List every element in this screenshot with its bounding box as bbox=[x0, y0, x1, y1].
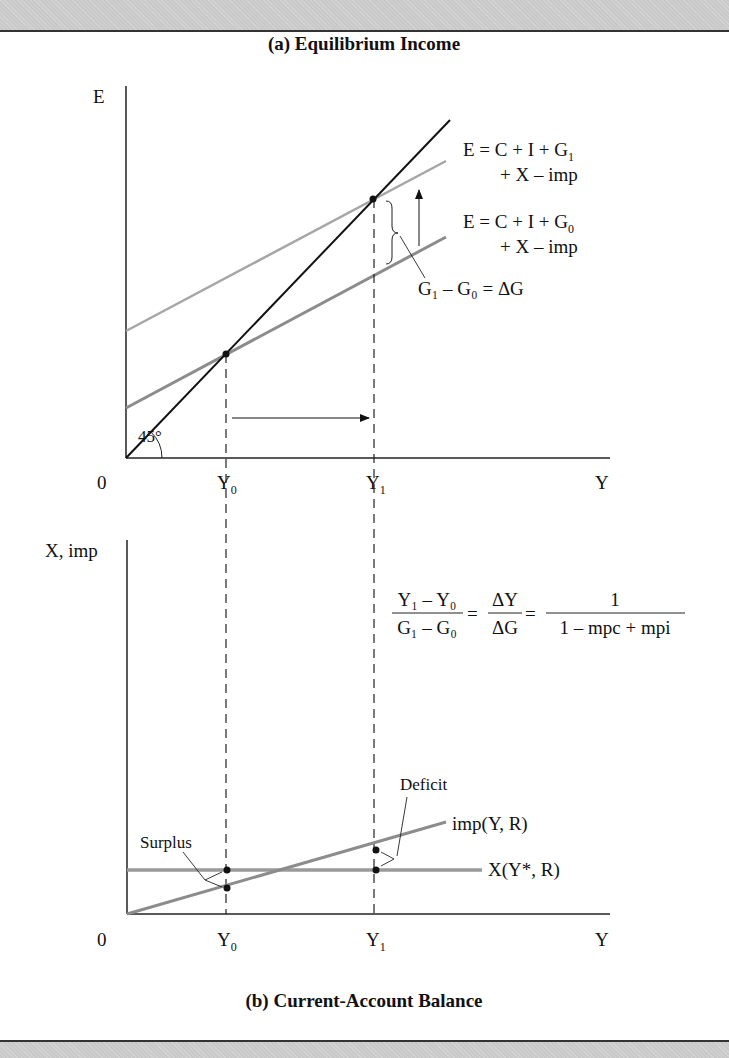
deficit-bracket bbox=[381, 852, 394, 866]
export-line-label: X(Y*, R) bbox=[488, 859, 560, 881]
line-g0-label: E = C + I + G0 bbox=[463, 211, 574, 236]
import-line-label: imp(Y, R) bbox=[452, 813, 528, 835]
svg-text:1: 1 bbox=[610, 589, 620, 610]
angle-label: 45° bbox=[138, 427, 162, 446]
delta-g-label: G₁ – G₀ = ΔG bbox=[418, 278, 524, 299]
line-g0-label-cont: + X – imp bbox=[500, 236, 578, 257]
svg-text:=: = bbox=[467, 603, 478, 624]
panel-a-title: (a) Equilibrium Income bbox=[268, 33, 460, 55]
panel-a-y1-label: Y1 bbox=[366, 472, 386, 497]
forty-five-degree-line bbox=[126, 120, 450, 458]
panel-b-title: (b) Current-Account Balance bbox=[245, 990, 482, 1012]
svg-text:ΔG: ΔG bbox=[492, 617, 518, 638]
panel-b-origin-label: 0 bbox=[97, 929, 107, 950]
svg-text:1 – mpc + mpi: 1 – mpc + mpi bbox=[560, 617, 671, 638]
surplus-bracket bbox=[205, 872, 222, 887]
delta-g-leader bbox=[400, 236, 425, 278]
svg-text:G₁ – G₀: G₁ – G₀ bbox=[397, 617, 457, 638]
svg-text:=: = bbox=[525, 603, 536, 624]
deficit-label: Deficit bbox=[400, 775, 447, 794]
equilibrium-point-y1 bbox=[370, 196, 377, 203]
svg-text:ΔY: ΔY bbox=[492, 589, 518, 610]
surplus-label: Surplus bbox=[140, 833, 192, 852]
panel-b-x-axis-label: Y bbox=[595, 929, 609, 950]
export-point-y1 bbox=[373, 867, 380, 874]
delta-g-brace bbox=[386, 201, 398, 264]
import-point-y1 bbox=[373, 847, 380, 854]
panel-a-origin-label: 0 bbox=[97, 472, 107, 493]
surplus-leader bbox=[183, 852, 205, 880]
svg-text:Y₁ – Y₀: Y₁ – Y₀ bbox=[398, 589, 457, 610]
multiplier-formula: Y₁ – Y₀ G₁ – G₀ = ΔY ΔG = 1 1 – mpc + mp… bbox=[392, 589, 685, 638]
line-g1-label: E = C + I + G1 bbox=[463, 139, 574, 164]
panel-a-x-axis-label: Y bbox=[595, 472, 609, 493]
expenditure-line-g0 bbox=[126, 237, 446, 408]
line-g1-label-cont: + X – imp bbox=[500, 164, 578, 185]
panel-a-y0-label: Y0 bbox=[217, 472, 237, 497]
panel-a-y-axis-label: E bbox=[93, 86, 105, 107]
equilibrium-point-y0 bbox=[223, 351, 230, 358]
panel-b-y0-label: Y0 bbox=[217, 929, 237, 954]
import-point-y0 bbox=[224, 885, 231, 892]
deficit-leader bbox=[397, 797, 407, 856]
panel-b-y1-label: Y1 bbox=[366, 929, 386, 954]
panel-b-y-axis-label: X, imp bbox=[45, 540, 98, 561]
export-point-y0 bbox=[224, 867, 231, 874]
expenditure-line-g1 bbox=[126, 161, 446, 331]
panel-b-axes bbox=[127, 540, 610, 914]
